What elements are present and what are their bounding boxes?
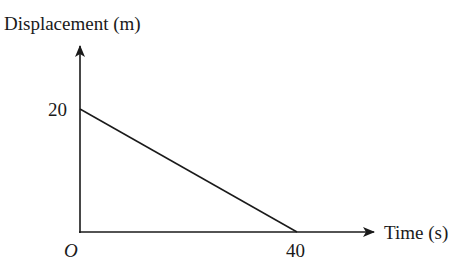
data-line xyxy=(80,109,297,232)
y-axis-label: Displacement (m) xyxy=(4,14,141,33)
x-axis-label: Time (s) xyxy=(384,223,448,242)
x-tick-40: 40 xyxy=(286,241,305,260)
origin-label: O xyxy=(64,241,78,260)
y-tick-20: 20 xyxy=(48,100,67,119)
